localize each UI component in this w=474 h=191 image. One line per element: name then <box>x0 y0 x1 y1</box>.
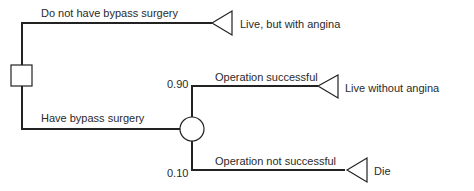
chance-node-circle <box>180 117 204 141</box>
success-branch-label: Operation successful <box>215 71 318 83</box>
outcome-live-with-angina: Live, but with angina <box>240 18 340 30</box>
no-surgery-branch-line <box>22 23 212 65</box>
terminal-triangle-die <box>347 158 367 182</box>
probability-failure: 0.10 <box>167 167 188 179</box>
terminal-triangle-angina <box>212 11 232 35</box>
probability-success: 0.90 <box>167 78 188 90</box>
no-surgery-branch-label: Do not have bypass surgery <box>41 7 178 19</box>
outcome-die: Die <box>374 165 391 177</box>
terminal-triangle-no-angina <box>318 75 338 98</box>
success-branch-line <box>192 86 318 117</box>
outcome-live-without-angina: Live without angina <box>345 82 439 94</box>
decision-node-square <box>11 65 32 86</box>
surgery-branch-label: Have bypass surgery <box>41 112 144 124</box>
failure-branch-label: Operation not successful <box>215 155 336 167</box>
